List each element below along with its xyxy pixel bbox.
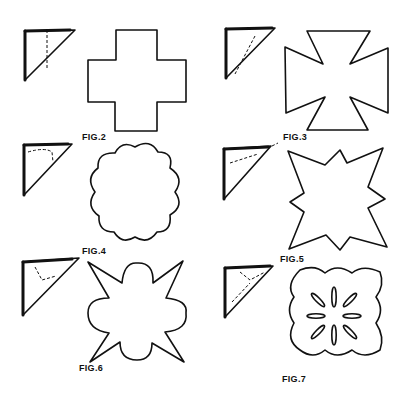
scalloped-flower-shape [91, 143, 179, 240]
spiked-star-shape [288, 148, 387, 250]
figure-label: FIG.3 [283, 132, 307, 142]
figure-label: FIG.6 [79, 363, 103, 373]
figure-4: FIG.4 [24, 143, 179, 256]
folded-paper-triangle-icon [25, 30, 75, 80]
folded-paper-triangle-icon [24, 144, 72, 195]
figure-label: FIG.2 [82, 132, 106, 142]
figure-label: FIG.5 [280, 254, 304, 264]
folded-paper-triangle-icon [225, 266, 273, 317]
scalloped-star-shape [88, 261, 186, 362]
figure-2: FIG.2 [25, 30, 186, 142]
paper-cutting-diagram: FIG.2 FIG.3 FIG.4 FIG. [0, 0, 413, 410]
folded-paper-triangle-icon [224, 143, 278, 199]
figure-3: FIG.3 [226, 28, 388, 142]
slit-cutouts [307, 287, 361, 345]
maltese-cross-shape [285, 31, 388, 130]
figure-6: FIG.6 [23, 258, 186, 373]
figure-label: FIG.4 [82, 246, 106, 256]
figure-label: FIG.7 [282, 374, 306, 384]
figure-7: FIG.7 [225, 266, 382, 384]
figure-5: FIG.5 [224, 143, 387, 264]
cross-shape [88, 30, 186, 131]
folded-paper-triangle-icon [226, 28, 275, 78]
folded-paper-triangle-icon [23, 258, 79, 315]
